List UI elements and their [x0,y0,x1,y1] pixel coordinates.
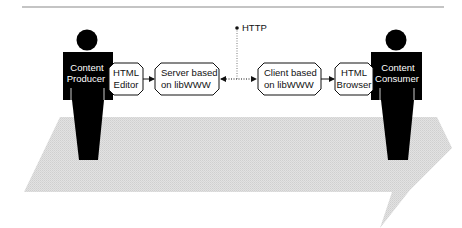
html-browser-line2: Browser [337,79,372,90]
http-label: HTTP [242,22,267,33]
server-line2: on libWWW [161,79,211,90]
producer-label-line2: Producer [67,73,106,84]
server-line1: Server based [161,67,218,78]
diagram-canvas: Content Producer Content Consumer HTML E… [0,0,462,228]
http-dot-icon [235,26,239,30]
consumer-head-icon [386,30,407,51]
html-editor-line2: Editor [114,79,139,90]
consumer-label-line1: Content [381,62,415,73]
html-browser-line1: HTML [341,67,367,78]
html-editor-line1: HTML [113,67,139,78]
producer-head-icon [77,30,98,51]
producer-label-line1: Content [70,62,104,73]
client-line2: on libWWW [264,79,314,90]
consumer-label-line2: Consumer [375,73,419,84]
client-line1: Client based [264,67,317,78]
